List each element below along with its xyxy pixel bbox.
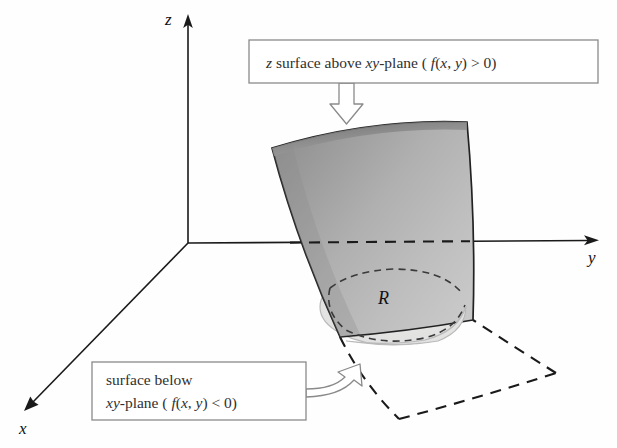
below-plane-right-edge xyxy=(473,320,556,373)
callout-above-text: z surface above xy-plane ( f(x, y) > 0) xyxy=(265,54,496,72)
callout-below-arrow-icon xyxy=(306,364,362,397)
z-axis-label: z xyxy=(164,10,172,29)
diagram-svg: z y x R xyxy=(0,0,617,448)
callout-below-text-line2: xy-plane ( f(x, y) < 0) xyxy=(105,394,237,412)
region-label-R: R xyxy=(377,288,389,308)
figure-canvas: z y x R xyxy=(0,0,617,448)
callout-below-text-line1: surface below xyxy=(106,371,193,388)
x-axis-label: x xyxy=(18,419,27,438)
callout-above-plane[interactable] xyxy=(249,40,598,124)
below-plane-bottom-edge xyxy=(399,373,556,419)
callout-above-arrow-icon xyxy=(330,83,363,124)
surface-patch xyxy=(272,122,474,337)
y-axis-label: y xyxy=(586,248,596,267)
